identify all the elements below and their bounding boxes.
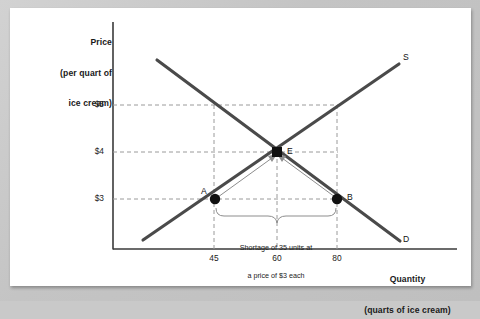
shortage-annotation-line-1: Shortage of 35 units at bbox=[210, 243, 342, 252]
shortage-annotation: Shortage of 35 units at a price of $3 ea… bbox=[210, 224, 342, 299]
curve-label-demand: D bbox=[403, 234, 409, 244]
arrow-b-to-e-line bbox=[282, 158, 335, 197]
y-tick-label-3: $3 bbox=[78, 194, 104, 204]
y-axis-title-line-2: (per quart of bbox=[60, 68, 112, 78]
figure-card: Price (per quart of ice cream) $5 $4 $3 … bbox=[10, 8, 471, 286]
y-axis-title-line-1: Price bbox=[60, 37, 112, 47]
point-label-b: B bbox=[347, 192, 353, 202]
x-axis-title: Quantity (quarts of ice cream) bbox=[340, 254, 475, 319]
shortage-annotation-line-2: a price of $3 each bbox=[210, 271, 342, 280]
point-label-e: E bbox=[287, 146, 293, 156]
point-e-marker bbox=[272, 147, 282, 157]
point-label-a: A bbox=[201, 186, 207, 196]
supply-curve bbox=[143, 64, 399, 240]
x-axis-title-line-1: Quantity bbox=[340, 274, 475, 284]
curve-label-supply: S bbox=[403, 52, 409, 62]
y-tick-label-4: $4 bbox=[78, 147, 104, 157]
point-a-marker bbox=[210, 194, 220, 204]
arrow-a-to-e-line bbox=[218, 158, 272, 197]
shortage-brace bbox=[216, 208, 336, 223]
y-tick-label-5: $5 bbox=[78, 100, 104, 110]
y-axis-title: Price (per quart of ice cream) bbox=[60, 17, 112, 129]
supply-demand-figure: Price (per quart of ice cream) $5 $4 $3 … bbox=[10, 8, 471, 286]
x-axis-title-line-2: (quarts of ice cream) bbox=[340, 305, 475, 315]
point-b-marker bbox=[332, 194, 342, 204]
